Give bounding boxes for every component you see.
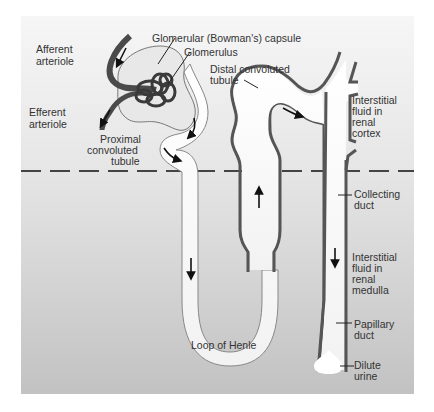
label-efferent-2: arteriole <box>29 118 67 130</box>
label-capsule: Glomerular (Bowman's) capsule <box>152 32 301 44</box>
label-glomerulus: Glomerulus <box>184 46 238 58</box>
label-cortex-4: cortex <box>352 127 381 139</box>
label-efferent-1: Efferent <box>29 106 66 118</box>
label-medulla-4: medulla <box>352 284 389 296</box>
label-afferent-1: Afferent <box>36 43 73 55</box>
label-distal-2: tubule <box>210 74 239 86</box>
label-urine-2: urine <box>354 370 378 382</box>
label-papillary-2: duct <box>354 329 374 341</box>
label-proximal-3: tubule <box>111 155 140 167</box>
label-collecting-2: duct <box>354 199 374 211</box>
label-loop-of-henle: Loop of Henle <box>191 339 257 351</box>
label-afferent-2: arteriole <box>36 55 74 67</box>
nephron-diagram: Glomerular (Bowman's) capsule Glomerulus… <box>0 0 434 412</box>
